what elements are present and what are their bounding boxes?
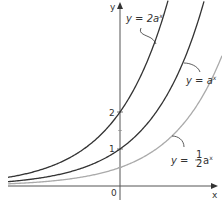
label-a-power-x: y = ax [185,74,217,86]
y-axis-label: y [110,2,116,12]
y-tick-label-2: 2 [109,108,115,118]
leader-a-power-x [184,63,200,72]
y-tick-label-1: 1 [109,144,115,154]
curve-2a-power-x [8,1,168,178]
exponential-graph: y x 0 1 2 y = 2ax y = ax y = 1 2 ax [0,0,222,206]
label-half-tail: ax [203,154,213,166]
x-axis-label: x [212,190,218,200]
label-2a-power-x: y = 2ax [125,12,163,24]
leader-2a-power-x [140,28,156,44]
fraction-denominator: 2 [196,158,202,169]
y-axis-arrow-icon [117,2,123,9]
leader-half-a-power-x [172,136,184,147]
origin-label: 0 [111,188,117,198]
label-half-a-power-x: y = [170,155,188,166]
x-axis-arrow-icon [211,183,218,189]
